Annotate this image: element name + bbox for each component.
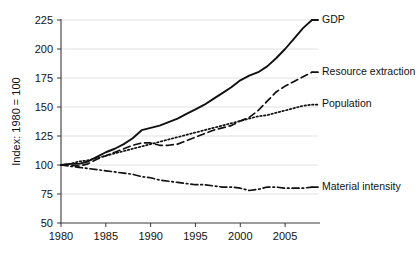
series-label-population: Population [322,97,372,109]
series-line-resource-extraction [61,72,312,166]
gridlines-group [61,20,318,194]
x-tick-label-2000: 2000 [228,230,252,242]
y-tick-label-175: 175 [35,72,53,84]
y-axis-title-text: Index: 1980 = 100 [10,77,22,165]
y-tick-label-125: 125 [35,130,53,142]
series-labels-group: GDPResource extractionPopulationMaterial… [322,13,416,192]
y-axis-tick-labels: 5075100125150175200225 [35,14,53,229]
x-tick-label-1995: 1995 [183,230,207,242]
y-tick-label-50: 50 [41,217,53,229]
y-tick-label-200: 200 [35,43,53,55]
y-tick-label-75: 75 [41,188,53,200]
series-label-material-intensity: Material intensity [322,180,402,192]
cropped-bottom-caption [0,248,420,258]
chart-figure: 5075100125150175200225 19801985199019952… [0,0,420,258]
series-line-gdp [61,20,312,165]
x-axis-tick-labels: 198019851990199520002005 [49,230,298,242]
y-tick-label-225: 225 [35,14,53,26]
y-tick-label-150: 150 [35,101,53,113]
series-label-resource-extraction: Resource extraction [322,65,416,77]
series-label-gdp: GDP [322,13,345,25]
x-tick-label-1990: 1990 [138,230,162,242]
x-tick-label-1985: 1985 [94,230,118,242]
y-tick-label-100: 100 [35,159,53,171]
x-tick-label-1980: 1980 [49,230,73,242]
y-axis-title: Index: 1980 = 100 [10,77,22,165]
series-line-material-intensity [61,165,312,191]
x-tick-label-2005: 2005 [273,230,297,242]
axes-group [57,19,320,227]
line-chart-plot: 5075100125150175200225 19801985199019952… [0,0,420,258]
